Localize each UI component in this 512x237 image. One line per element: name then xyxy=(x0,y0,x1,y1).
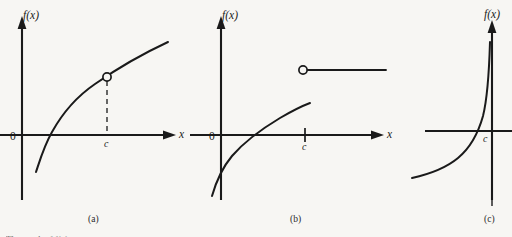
c-label: c xyxy=(483,134,487,144)
panel-b-graphic xyxy=(190,0,400,210)
c-label: c xyxy=(104,139,108,149)
x-axis-arrowhead xyxy=(163,131,176,140)
c-label: c xyxy=(302,142,306,152)
panel-c-graphic xyxy=(400,0,512,210)
x-axis-label: x xyxy=(387,129,392,141)
cut-off-caption-text: The graph of f(x) at x xyxy=(6,234,84,237)
function-curve xyxy=(36,42,168,172)
panel-c-caption: (c) xyxy=(484,215,495,225)
x-axis-label: x xyxy=(179,129,184,141)
y-axis-label: f(x) xyxy=(484,9,500,21)
y-axis-label: f(x) xyxy=(222,10,238,22)
function-curve xyxy=(412,42,490,178)
panel-c: f(x) c (c) xyxy=(400,0,512,210)
panel-b: f(x) x 0 c (b) xyxy=(190,0,400,210)
y-axis-label: f(x) xyxy=(23,10,39,22)
origin-label: 0 xyxy=(10,131,16,143)
panel-a-graphic xyxy=(0,0,190,210)
function-curve-lower xyxy=(212,103,310,196)
panel-a-caption: (a) xyxy=(88,215,99,225)
open-circle-marker xyxy=(299,66,307,74)
open-circle-marker xyxy=(103,73,111,81)
panel-a: f(x) x 0 c (a) xyxy=(0,0,190,210)
panel-b-caption: (b) xyxy=(290,215,301,225)
x-axis-arrowhead xyxy=(371,131,384,140)
origin-label: 0 xyxy=(209,131,215,143)
y-axis-arrowhead xyxy=(488,20,497,33)
figure-container: f(x) x 0 c (a) f(x) x 0 c (b) xyxy=(0,0,512,237)
